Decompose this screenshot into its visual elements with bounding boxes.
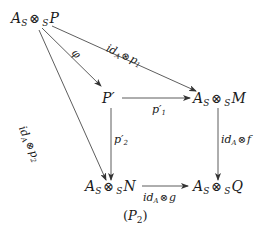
id-text: id — [143, 191, 154, 204]
node-sub: S — [95, 186, 101, 196]
node-base: A — [85, 178, 95, 194]
node-base: A — [11, 10, 21, 26]
label-p1-prime: p′1 — [152, 104, 166, 119]
node-object: P — [49, 10, 58, 26]
tensor-symbol: ⊗ — [211, 91, 222, 106]
node-object: Q — [231, 178, 242, 194]
diagram-caption: (P2) — [123, 208, 148, 225]
node-sub: S — [203, 186, 209, 196]
node-sub: S — [203, 98, 209, 108]
map-text: p′ — [114, 133, 124, 146]
map-sub: 2 — [124, 139, 128, 147]
node-base: A — [193, 90, 203, 106]
tensor-symbol: ⊗ — [238, 134, 246, 145]
tensor-symbol: ⊗ — [211, 179, 222, 194]
node-sub: S — [21, 18, 27, 28]
paren-close: ) — [143, 208, 148, 223]
node-AS-tensor-Q: AS⊗SQ — [193, 178, 243, 199]
node-text: P′ — [102, 90, 115, 106]
node-presub: S — [224, 186, 230, 196]
node-object: M — [231, 90, 245, 106]
id-text: id — [221, 133, 232, 146]
node-AS-tensor-P: AS⊗SP — [11, 10, 59, 31]
node-presub: S — [116, 186, 122, 196]
label-p2-prime: p′2 — [114, 134, 128, 149]
node-AS-tensor-M: AS⊗SM — [193, 90, 246, 111]
map-sub: 1 — [162, 109, 166, 117]
id-sub: A — [232, 139, 237, 147]
node-AS-tensor-N: AS⊗SN — [85, 178, 136, 199]
id-sub: A — [154, 197, 159, 205]
tensor-symbol: ⊗ — [103, 179, 114, 194]
caption-name: P — [128, 208, 137, 223]
node-base: A — [193, 178, 203, 194]
map-text: p′ — [152, 103, 162, 116]
map-text: g — [169, 191, 176, 204]
tensor-symbol: ⊗ — [29, 11, 40, 26]
label-idA-tensor-g: idA⊗g — [143, 192, 176, 207]
node-object: N — [123, 178, 135, 194]
map-text: f — [247, 133, 251, 146]
label-idA-tensor-f: idA⊗f — [221, 134, 251, 149]
tensor-symbol: ⊗ — [160, 192, 168, 203]
node-presub: S — [224, 98, 230, 108]
node-presub: S — [42, 18, 48, 28]
node-P-prime: P′ — [102, 90, 115, 106]
